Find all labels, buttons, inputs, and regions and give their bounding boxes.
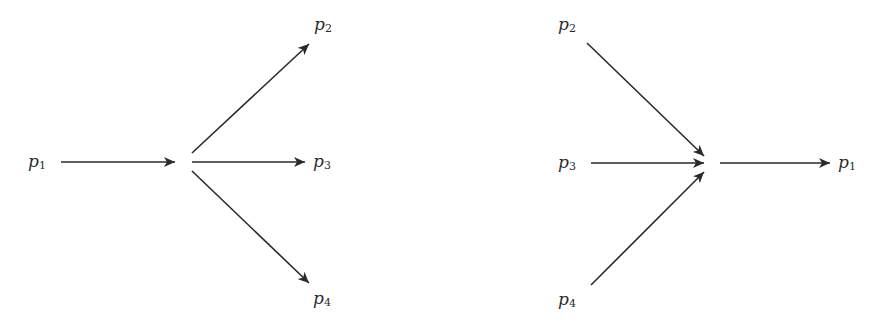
merge-label-p2: p2: [558, 16, 576, 34]
merge-label-p3: p3: [558, 154, 576, 172]
arrow-node-to-p2: [192, 44, 309, 153]
split-label-p1: p1: [28, 153, 46, 171]
arrow-p4-to-node: [591, 172, 704, 285]
split-label-p4: p4: [313, 290, 331, 308]
arrow-p2-to-node: [587, 43, 704, 156]
merge-label-p4: p4: [558, 291, 576, 309]
arrow-node-to-p4: [192, 171, 309, 283]
split-label-p2: p2: [314, 16, 332, 34]
split-diagram: [61, 44, 309, 283]
split-label-p3: p3: [313, 153, 331, 171]
diagram-canvas: [0, 0, 892, 329]
merge-diagram: [587, 43, 830, 285]
merge-label-p1: p1: [838, 154, 856, 172]
